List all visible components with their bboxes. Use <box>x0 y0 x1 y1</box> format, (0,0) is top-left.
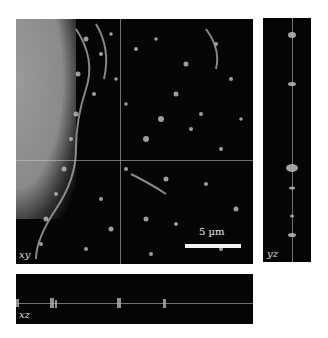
scale-bar-label: 5 µm <box>199 226 225 237</box>
crosshair-vertical <box>120 19 121 264</box>
xz-view-panel: xz <box>16 274 253 324</box>
yz-label: yz <box>267 248 278 259</box>
yz-signal <box>263 18 311 262</box>
xy-view-panel: 5 µm xy <box>16 19 253 264</box>
xz-signal <box>16 274 253 324</box>
scale-bar <box>185 244 241 248</box>
xy-label: xy <box>19 249 30 260</box>
xz-label: xz <box>19 309 30 320</box>
yz-view-panel: yz <box>263 18 311 262</box>
crosshair-horizontal <box>16 160 253 161</box>
